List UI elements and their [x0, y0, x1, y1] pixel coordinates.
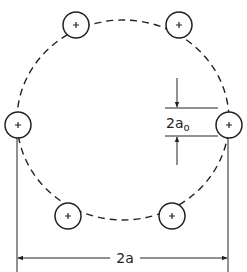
wire-top-left	[63, 12, 89, 38]
wire-array-diagram: 2ao 2a	[0, 0, 247, 272]
wire-diameter-dimension: 2ao	[165, 78, 218, 165]
dashed-circle	[17, 20, 229, 220]
spacing-label: 2a	[116, 250, 134, 266]
wire-top-right	[166, 12, 192, 38]
spacing-dimension: 2a	[17, 138, 228, 272]
wire-bottom-left	[55, 203, 81, 229]
wire-right	[216, 112, 242, 138]
wire-diameter-label: 2ao	[166, 115, 190, 133]
wire-bottom-right	[159, 203, 185, 229]
wire-left	[5, 112, 31, 138]
